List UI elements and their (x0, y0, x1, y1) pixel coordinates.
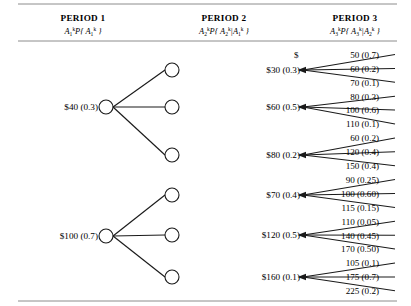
probability-tree-figure: $40 (0.3)$100 (0.7)$30 (0.3)$60 (0.5)$80… (0, 0, 411, 306)
period2-node[interactable] (165, 228, 179, 242)
edge-p1-p2 (113, 70, 165, 107)
period3-outcome-label: 50 (0.7) (350, 50, 379, 60)
period2-node[interactable] (165, 100, 179, 114)
period1-node[interactable] (99, 100, 113, 114)
period3-outcome-label: 110 (0.05) (341, 217, 379, 227)
period2-node[interactable] (165, 188, 179, 202)
tree-nodes (99, 63, 179, 284)
period1-node[interactable] (99, 229, 113, 243)
column-header-formula: A3kP{ A3k|A2k } (329, 26, 381, 37)
period3-outcome-label: 150 (0.4) (346, 161, 379, 171)
period2-node-label: $120 (0.5) (262, 230, 300, 240)
period2-node[interactable] (165, 270, 179, 284)
period3-outcome-label: 140 (0.45) (341, 231, 379, 241)
column-header-formula: A1kP{ A1k } (63, 26, 102, 37)
period3-outcome-label: 60 (0.2) (350, 64, 379, 74)
edge-p1-p2 (113, 195, 165, 236)
period3-outcome-label: 115 (0.15) (341, 203, 379, 213)
column-header-formula: A2kP{ A2k|A1k } (198, 26, 250, 37)
period3-outcome-label: 170 (0.50) (341, 244, 379, 254)
period2-node-label: $160 (0.1) (262, 272, 300, 282)
column-header-title: PERIOD 1 (60, 13, 105, 23)
header-rules (18, 4, 397, 301)
tree-diagram-canvas: $40 (0.3)$100 (0.7)$30 (0.3)$60 (0.5)$80… (0, 0, 411, 306)
edge-p1-p2 (113, 235, 165, 236)
period3-outcome-label: 120 (0.4) (346, 147, 379, 157)
period3-outcome-label: 80 (0.3) (350, 92, 379, 102)
period3-outcome-label: 175 (0.7) (346, 272, 379, 282)
period1-node-label: $40 (0.3) (64, 102, 98, 112)
currency-symbol: $ (294, 50, 299, 60)
edge-p2-p3 (303, 70, 395, 82)
period2-node[interactable] (165, 148, 179, 162)
column-headers: PERIOD 1A1kP{ A1k }PERIOD 2A2kP{ A2k|A1k… (60, 13, 380, 37)
period3-outcome-label: 100 (0.60) (341, 189, 379, 199)
column-header-title: PERIOD 3 (332, 13, 377, 23)
period1-node-label: $100 (0.7) (60, 231, 98, 241)
period3-outcome-label: 110 (0.1) (346, 119, 379, 129)
edge-p2-p3 (303, 68, 395, 70)
edge-p2-p3 (303, 55, 395, 71)
period2-node-label: $30 (0.3) (266, 65, 300, 75)
tree-labels: $40 (0.3)$100 (0.7)$30 (0.3)$60 (0.5)$80… (60, 50, 379, 296)
edge-p1-p2 (113, 107, 165, 155)
period3-outcome-label: 90 (0.25) (346, 175, 379, 185)
period2-node-label: $80 (0.2) (266, 150, 300, 160)
period3-outcome-label: 70 (0.1) (350, 78, 379, 88)
edge-p1-p2 (113, 236, 165, 277)
period3-outcome-label: 105 (0.1) (346, 258, 379, 268)
period2-node-label: $70 (0.4) (266, 190, 300, 200)
tree-edges (113, 55, 395, 291)
column-header-title: PERIOD 2 (201, 13, 246, 23)
period3-outcome-label: 60 (0.2) (350, 133, 379, 143)
period3-outcome-label: 225 (0.2) (346, 286, 379, 296)
period2-node[interactable] (165, 63, 179, 77)
period3-outcome-label: 100 (0.6) (346, 105, 379, 115)
period2-node-label: $60 (0.5) (266, 102, 300, 112)
